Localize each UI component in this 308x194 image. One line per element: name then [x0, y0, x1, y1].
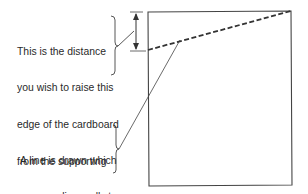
top-leader-line [118, 31, 134, 46]
annotation-line: crosses diagonally to [20, 191, 117, 194]
annotation-line: This is the distance [17, 46, 119, 58]
diagram: This is the distance you wish to raise t… [0, 0, 308, 194]
diagonal-line-annotation: A line is drawn which crosses diagonally… [20, 130, 117, 194]
bottom-brace [113, 40, 180, 173]
annotation-line: you wish to raise this [17, 82, 119, 94]
bottom-leader-line [119, 40, 180, 149]
cardboard-rectangle [148, 11, 292, 186]
annotation-line: A line is drawn which [20, 155, 117, 167]
dashed-diagonal-line [148, 11, 291, 50]
height-dimension-arrow [130, 12, 146, 51]
